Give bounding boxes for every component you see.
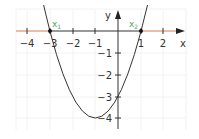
- y-tick-label: −2: [97, 70, 112, 81]
- root-label-x1: x1: [52, 19, 61, 30]
- y-tick-label: −3: [97, 92, 112, 103]
- x-tick-label: −4: [20, 38, 35, 49]
- x-tick-label: −3: [43, 38, 58, 49]
- x-axis-label: x: [180, 38, 186, 49]
- x-axis-arrow-icon: [176, 28, 185, 34]
- y-axis-arrow-icon: [115, 10, 121, 19]
- root-point-x1: [48, 29, 52, 33]
- y-tick-label: −1: [97, 48, 112, 59]
- y-axis-label: y: [105, 10, 111, 21]
- x-tick-label: 2: [160, 38, 166, 49]
- parabola-diagram: −4 −3 −2 −1 1 2 −1 −2 −3 −4 x y x1 x2: [0, 0, 199, 139]
- root-label-x2: x2: [129, 19, 138, 30]
- x-tick-label: −2: [66, 38, 81, 49]
- root-point-x2: [139, 29, 143, 33]
